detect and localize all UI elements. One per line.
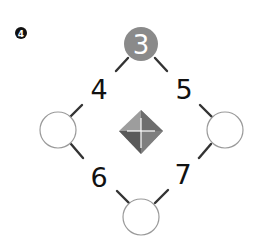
top-circle-value: 3 <box>133 30 150 60</box>
top-circle: 3 <box>124 27 158 61</box>
edge-number-top-left: 4 <box>90 74 107 105</box>
diamond-gem-icon <box>119 110 163 154</box>
number-puzzle-diagram: 4 3 4 5 6 7 <box>0 0 257 251</box>
edge-number-bottom-left: 6 <box>90 162 107 193</box>
right-answer-circle[interactable] <box>207 112 243 148</box>
badge-number: 4 <box>18 29 24 39</box>
problem-badge: 4 <box>15 27 27 39</box>
edge-number-top-right: 5 <box>175 74 192 105</box>
bottom-answer-circle[interactable] <box>123 199 159 235</box>
edge-number-bottom-right: 7 <box>174 159 191 190</box>
left-answer-circle[interactable] <box>40 112 76 148</box>
